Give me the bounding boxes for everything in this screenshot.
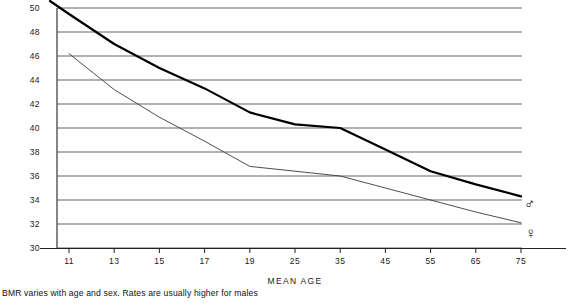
x-tick-label: 75 xyxy=(506,256,536,266)
y-tick-label: 38 xyxy=(14,147,40,157)
y-tick-label: 48 xyxy=(14,27,40,37)
x-tick-label: 15 xyxy=(144,256,174,266)
y-tick-label: 44 xyxy=(14,75,40,85)
x-tick-label: 13 xyxy=(99,256,129,266)
x-tick-label: 55 xyxy=(416,256,446,266)
gridlines-group xyxy=(57,8,522,248)
figure-caption: BMR varies with age and sex. Rates are u… xyxy=(2,288,258,298)
female-symbol-icon: ♀ xyxy=(525,225,536,240)
y-tick-label: 46 xyxy=(14,51,40,61)
x-tick-label: 17 xyxy=(190,256,220,266)
female-series-line xyxy=(69,54,521,223)
bmr-age-chart-figure: 3032343638404244464850 11131517192535455… xyxy=(0,0,571,304)
y-tick-label: 50 xyxy=(14,3,40,13)
x-tick-label: 65 xyxy=(461,256,491,266)
x-tick-label: 19 xyxy=(235,256,265,266)
y-tick-label: 32 xyxy=(14,219,40,229)
x-axis-title: MEAN AGE xyxy=(195,276,395,286)
male-symbol-icon: ♂ xyxy=(524,196,535,211)
y-tick-label: 36 xyxy=(14,171,40,181)
y-tick-label: 42 xyxy=(14,99,40,109)
x-tick-label: 35 xyxy=(325,256,355,266)
male-series-line xyxy=(50,1,521,196)
y-tick-label: 30 xyxy=(14,243,40,253)
y-tick-label: 40 xyxy=(14,123,40,133)
x-tick-label: 11 xyxy=(54,256,84,266)
series-lines-group xyxy=(50,1,521,223)
y-tick-label: 34 xyxy=(14,195,40,205)
x-tick-label: 45 xyxy=(370,256,400,266)
x-tick-label: 25 xyxy=(280,256,310,266)
